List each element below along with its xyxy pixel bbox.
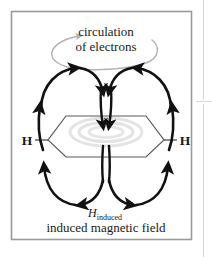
center-field-arrows [101, 88, 112, 182]
circulation-label-line1: circulation [78, 24, 134, 39]
diagram-canvas: circulation of electrons H H [0, 0, 212, 257]
field-loop-right-top [109, 68, 171, 108]
circulation-label-line2: of electrons [75, 39, 136, 54]
figure-caption: induced magnetic field [46, 220, 166, 235]
field-loop-left-side [39, 106, 43, 150]
field-loop-right-bottom [109, 166, 168, 205]
atom-label-right-h: H [180, 133, 191, 148]
field-loop-left-bottom [44, 166, 103, 205]
field-loop-left-top [41, 68, 103, 108]
atom-label-left-h: H [22, 133, 33, 148]
pi-electron-cloud [70, 118, 142, 146]
field-loop-right-side [169, 106, 173, 150]
page-edge-artifact [196, 0, 212, 257]
induced-magnetic-field-diagram: circulation of electrons H H [0, 0, 212, 257]
